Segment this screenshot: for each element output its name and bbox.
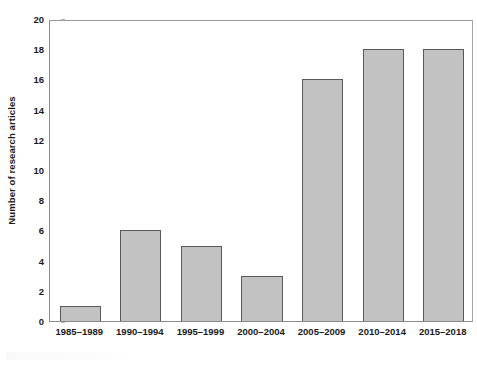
y-tick-label: 18 xyxy=(33,45,44,55)
x-axis-tick-labels: 1985–19891990–19941995–19992000–20042005… xyxy=(49,326,473,342)
bar xyxy=(120,230,161,321)
scan-artifact xyxy=(6,352,126,360)
bar xyxy=(60,306,101,321)
x-tick-label: 2015–2018 xyxy=(419,326,467,337)
y-tick-label: 4 xyxy=(39,257,44,267)
bar-slot xyxy=(353,21,414,321)
bars-container xyxy=(50,21,472,321)
bar-slot xyxy=(50,21,111,321)
bar xyxy=(423,49,464,321)
y-tick-label: 6 xyxy=(39,227,44,237)
x-tick-label: 2005–2009 xyxy=(298,326,346,337)
y-tick-label: 16 xyxy=(33,76,44,86)
y-tick-label: 10 xyxy=(33,166,44,176)
x-tick-label: 1990–1994 xyxy=(116,326,164,337)
bar xyxy=(363,49,404,321)
bar-slot xyxy=(413,21,474,321)
y-tick-label: 12 xyxy=(33,136,44,146)
bar xyxy=(181,246,222,322)
plot-area xyxy=(49,20,473,322)
y-axis-tick-labels: 02468101214161820 xyxy=(16,14,44,321)
y-tick-label: 20 xyxy=(33,15,44,25)
bar-chart-figure: Number of research articles 024681012141… xyxy=(0,0,477,367)
y-tick-label: 8 xyxy=(39,196,44,206)
bar-slot xyxy=(292,21,353,321)
x-tick-label: 2000–2004 xyxy=(237,326,285,337)
x-tick-label: 1985–1989 xyxy=(56,326,104,337)
bar-slot xyxy=(171,21,232,321)
y-tick-label: 2 xyxy=(39,287,44,297)
bar xyxy=(302,79,343,321)
bar xyxy=(241,276,282,321)
y-axis-title: Number of research articles xyxy=(6,96,17,224)
bar-slot xyxy=(232,21,293,321)
y-tick-label: 14 xyxy=(33,106,44,116)
bar-slot xyxy=(111,21,172,321)
y-tick-label: 0 xyxy=(39,317,44,327)
x-tick-label: 1995–1999 xyxy=(177,326,225,337)
x-tick-label: 2010–2014 xyxy=(358,326,406,337)
